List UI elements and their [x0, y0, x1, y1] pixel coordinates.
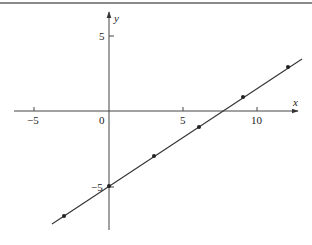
x-tick-label-5: 5	[180, 114, 186, 126]
x-tick-label-10: 10	[251, 114, 263, 126]
data-point	[197, 125, 201, 129]
data-line	[52, 59, 302, 224]
data-point	[152, 154, 156, 158]
y-tick-label-5: 5	[99, 30, 105, 42]
x-tick-label-0: 0	[99, 114, 105, 126]
data-point	[286, 65, 290, 69]
x-axis-label: x	[292, 96, 298, 108]
data-point	[62, 214, 66, 218]
y-axis-label: y	[113, 12, 119, 24]
chart-canvas: −5 0 5 10 5 −5 x y	[0, 0, 312, 245]
data-point	[241, 95, 245, 99]
x-tick-label-neg5: −5	[27, 114, 39, 126]
data-point	[107, 184, 111, 188]
